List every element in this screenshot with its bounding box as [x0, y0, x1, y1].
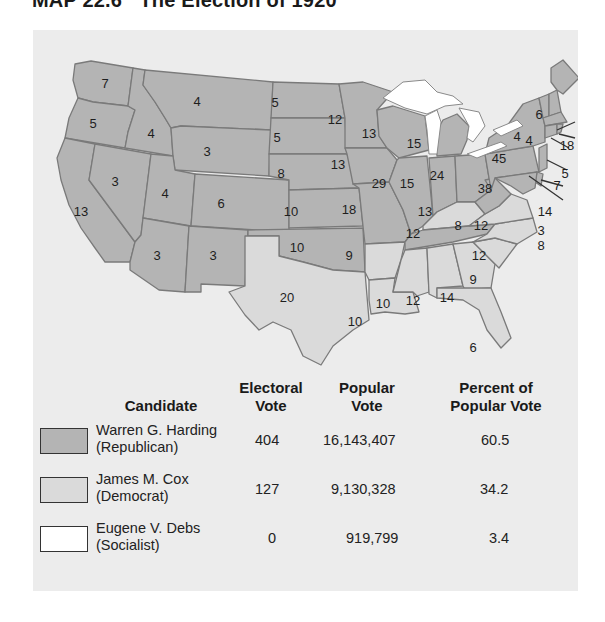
ev-label-ut: 4 [161, 186, 168, 201]
ev-label-ri: 5 [561, 166, 568, 181]
popular-vote: 9,130,328 [331, 481, 396, 497]
percent-popular-vote: 3.4 [489, 530, 509, 546]
ev-label-sd: 5 [273, 130, 280, 145]
table-row-cox: James M. Cox(Democrat) 127 9,130,328 34.… [33, 471, 578, 511]
popular-vote: 919,799 [346, 530, 398, 546]
ev-label-oh: 24 [430, 168, 444, 183]
legend-swatch-socialist [40, 526, 88, 552]
ev-label-mn: 12 [328, 112, 342, 127]
ev-label-mo: 18 [342, 202, 356, 217]
ev-label-vt: 4 [513, 129, 520, 144]
map-title: MAP 22.6 The Election of 1920 [32, 0, 337, 12]
ev-label-me: 6 [535, 107, 542, 122]
ev-label-pa: 38 [478, 181, 492, 196]
ev-label-co: 6 [217, 196, 224, 211]
ev-label-nv: 3 [111, 174, 118, 189]
us-election-map: 7 5 13 4 3 4 3 4 6 3 3 5 5 8 10 10 20 12… [33, 30, 578, 390]
map-panel: 7 5 13 4 3 4 3 4 6 3 3 5 5 8 10 10 20 12… [33, 30, 578, 591]
ev-label-ga: 14 [440, 290, 454, 305]
ev-label-ok: 10 [290, 240, 304, 255]
ev-label-ct: 7 [553, 178, 560, 193]
percent-popular-vote: 60.5 [481, 432, 509, 448]
ev-label-ky: 13 [418, 204, 432, 219]
header-candidate: Candidate [105, 397, 217, 415]
state-nj [539, 144, 547, 172]
ev-label-wa: 7 [101, 76, 108, 91]
table-row-harding: Warren G. Harding(Republican) 404 16,143… [33, 422, 578, 462]
electoral-vote: 404 [255, 432, 279, 448]
ev-label-ks: 10 [284, 204, 298, 219]
table-row-debs: Eugene V. Debs(Socialist) 0 919,799 3.4 [33, 520, 578, 560]
header-electoral-vote: ElectoralVote [221, 379, 321, 415]
candidate-name: Warren G. Harding(Republican) [96, 422, 217, 456]
ev-label-al: 12 [406, 293, 420, 308]
ev-label-wy: 3 [203, 144, 210, 159]
ev-label-id: 4 [147, 126, 154, 141]
candidate-name: James M. Cox(Democrat) [96, 471, 189, 505]
state-ct [545, 124, 557, 138]
ev-label-az: 3 [153, 248, 160, 263]
state-me [551, 60, 578, 94]
ev-label-ca: 13 [74, 204, 88, 219]
state-co [191, 174, 289, 232]
ev-label-il: 29 [372, 176, 386, 191]
ev-label-in: 15 [400, 176, 414, 191]
ev-label-nd: 5 [271, 95, 278, 110]
percent-popular-vote: 34.2 [480, 481, 508, 497]
electoral-vote: 127 [255, 481, 279, 497]
popular-vote: 16,143,407 [323, 432, 396, 448]
ev-label-ne: 8 [277, 166, 284, 181]
ev-label-nh: 4 [525, 133, 532, 148]
ev-label-sc: 9 [469, 272, 476, 287]
ev-label-mi: 15 [407, 136, 421, 151]
ev-label-md: 8 [537, 238, 544, 253]
ev-label-ny: 45 [492, 151, 506, 166]
header-percent-popular-vote: Percent ofPopular Vote [421, 379, 571, 415]
ev-label-wi: 13 [362, 126, 376, 141]
ev-label-de: 3 [537, 223, 544, 238]
ev-label-or: 5 [89, 116, 96, 131]
ev-label-nj: 14 [538, 204, 552, 219]
ev-label-wv: 8 [454, 218, 461, 233]
ev-label-fl: 6 [469, 340, 476, 355]
header-popular-vote: PopularVote [317, 379, 417, 415]
legend-swatch-republican [40, 428, 88, 454]
ev-label-nm: 3 [209, 248, 216, 263]
legend-swatch-democrat [40, 477, 88, 503]
ev-label-mt: 4 [193, 94, 200, 109]
ev-label-ia: 13 [331, 157, 345, 172]
ev-label-va: 12 [474, 218, 488, 233]
ev-label-tn: 12 [406, 226, 420, 241]
ev-label-nc: 12 [472, 248, 486, 263]
electoral-vote: 0 [268, 530, 276, 546]
candidate-name: Eugene V. Debs(Socialist) [96, 520, 200, 554]
ev-label-ms: 10 [376, 296, 390, 311]
ev-label-la: 10 [348, 314, 362, 329]
ev-label-ar: 9 [345, 248, 352, 263]
state-wy [171, 126, 271, 176]
ev-label-ma: 18 [560, 138, 574, 153]
ev-label-tx: 20 [280, 290, 294, 305]
